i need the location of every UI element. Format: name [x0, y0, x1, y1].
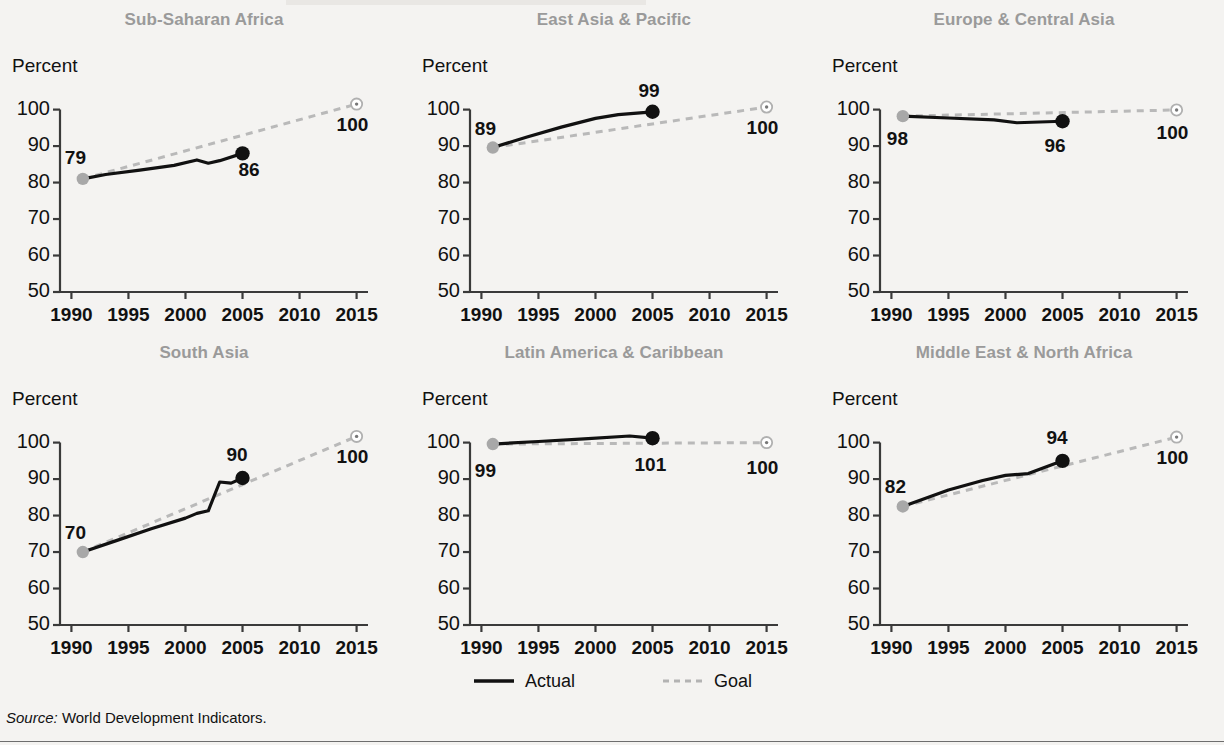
goal-value-label: 100 — [337, 446, 369, 468]
y-tick-label: 70 — [824, 206, 870, 229]
start-point-marker — [77, 173, 89, 185]
x-tick-label: 2010 — [270, 637, 330, 659]
goal-point-center-dot — [765, 105, 768, 108]
goal-point-center-dot — [355, 102, 358, 105]
y-tick-label: 90 — [4, 466, 50, 489]
x-tick-label: 2005 — [213, 304, 273, 326]
axis-spine — [470, 110, 778, 292]
x-tick-label: 2000 — [565, 304, 625, 326]
x-tick-label: 2005 — [623, 304, 683, 326]
legend-item-goal: Goal — [661, 671, 752, 692]
start-point-marker — [897, 500, 909, 512]
chart-panel: Europe & Central AsiaPercent100908070605… — [820, 0, 1224, 332]
x-tick-label: 2000 — [975, 304, 1035, 326]
y-tick-label: 90 — [414, 133, 460, 156]
y-tick-label: 90 — [824, 466, 870, 489]
x-tick-label: 2010 — [270, 304, 330, 326]
start-point-marker — [487, 141, 499, 153]
x-tick-label: 2005 — [623, 637, 683, 659]
y-tick-label: 70 — [414, 539, 460, 562]
x-tick-label: 2005 — [213, 637, 273, 659]
y-tick-label: 60 — [824, 243, 870, 266]
y-tick-label: 90 — [824, 133, 870, 156]
y-tick-label: 50 — [4, 279, 50, 302]
x-tick-label: 1990 — [41, 304, 101, 326]
start-point-marker — [897, 110, 909, 122]
chart-panel: East Asia & PacificPercent10090807060501… — [410, 0, 818, 332]
start-point-marker — [487, 438, 499, 450]
y-tick-label: 60 — [4, 576, 50, 599]
y-tick-label: 100 — [824, 430, 870, 453]
x-tick-label: 2000 — [565, 637, 625, 659]
x-tick-label: 2015 — [737, 304, 797, 326]
multi-panel-line-chart: Sub-Saharan AfricaPercent100908070605019… — [0, 0, 1224, 745]
start-value-label: 79 — [65, 147, 86, 169]
panel-plot-area — [410, 333, 818, 665]
source-note: Source: World Development Indicators. — [6, 709, 267, 726]
x-tick-label: 1995 — [508, 304, 568, 326]
start-value-label: 70 — [65, 522, 86, 544]
chart-panel: Latin America & CaribbeanPercent10090807… — [410, 333, 818, 665]
y-tick-label: 50 — [414, 612, 460, 635]
x-tick-label: 2010 — [680, 637, 740, 659]
chart-panel: Middle East & North AfricaPercent1009080… — [820, 333, 1224, 665]
y-tick-label: 70 — [414, 206, 460, 229]
chart-panel: South AsiaPercent10090807060501990199520… — [0, 333, 408, 665]
goal-value-label: 100 — [337, 114, 369, 136]
y-tick-label: 90 — [414, 466, 460, 489]
x-tick-label: 1990 — [41, 637, 101, 659]
end-value-label: 90 — [227, 444, 248, 466]
y-tick-label: 60 — [4, 243, 50, 266]
y-tick-label: 80 — [414, 503, 460, 526]
end-point-marker — [235, 471, 249, 485]
y-tick-label: 80 — [4, 503, 50, 526]
start-value-label: 89 — [475, 118, 496, 140]
legend-goal-label: Goal — [714, 671, 752, 692]
y-tick-label: 70 — [4, 206, 50, 229]
actual-line — [903, 461, 1063, 507]
x-tick-label: 1990 — [861, 304, 921, 326]
x-tick-label: 2015 — [1147, 637, 1207, 659]
x-tick-label: 2000 — [975, 637, 1035, 659]
y-tick-label: 60 — [414, 243, 460, 266]
end-value-label: 94 — [1047, 427, 1068, 449]
actual-line — [493, 112, 653, 148]
x-tick-label: 1990 — [451, 304, 511, 326]
panel-plot-area — [0, 333, 408, 665]
y-tick-label: 70 — [824, 539, 870, 562]
x-tick-label: 2010 — [1090, 637, 1150, 659]
y-tick-label: 50 — [824, 279, 870, 302]
x-tick-label: 1995 — [98, 304, 158, 326]
x-tick-label: 2015 — [737, 637, 797, 659]
actual-line — [903, 116, 1063, 123]
goal-value-label: 100 — [1157, 447, 1189, 469]
x-tick-label: 2000 — [155, 637, 215, 659]
chart-legend: Actual Goal — [0, 664, 1224, 698]
legend-actual-label: Actual — [525, 671, 575, 692]
end-value-label: 99 — [639, 80, 660, 102]
x-tick-label: 2010 — [1090, 304, 1150, 326]
end-value-label: 101 — [635, 454, 667, 476]
goal-value-label: 100 — [747, 117, 779, 139]
goal-line — [83, 104, 357, 179]
x-tick-label: 1990 — [861, 637, 921, 659]
x-tick-label: 1990 — [451, 637, 511, 659]
y-tick-label: 50 — [824, 612, 870, 635]
x-tick-label: 2015 — [327, 304, 387, 326]
x-tick-label: 2010 — [680, 304, 740, 326]
goal-line — [903, 110, 1177, 116]
x-tick-label: 2015 — [327, 637, 387, 659]
x-tick-label: 1995 — [98, 637, 158, 659]
legend-actual-line-icon — [472, 674, 516, 688]
x-tick-label: 1995 — [918, 637, 978, 659]
legend-goal-line-icon — [661, 674, 705, 688]
axis-spine — [60, 443, 368, 625]
axis-spine — [880, 110, 1188, 292]
y-tick-label: 90 — [4, 133, 50, 156]
y-tick-label: 80 — [824, 503, 870, 526]
axis-spine — [470, 443, 778, 625]
goal-point-center-dot — [1175, 108, 1178, 111]
end-point-marker — [645, 431, 659, 445]
start-value-label: 82 — [885, 476, 906, 498]
y-tick-label: 50 — [414, 279, 460, 302]
